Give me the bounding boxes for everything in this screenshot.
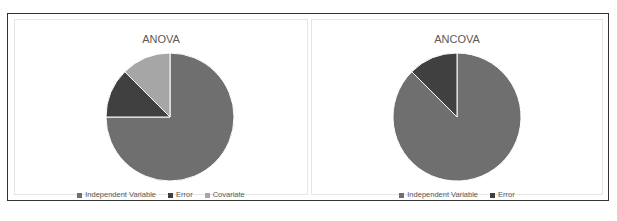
legend-swatch — [205, 193, 210, 198]
legend-item: Independent Variable — [77, 190, 156, 199]
anova-legend: Independent VariableErrorCovariate — [14, 190, 308, 199]
legend-label: Independent Variable — [85, 190, 156, 199]
ancova-pie — [387, 47, 527, 187]
chart-title: ANCOVA — [312, 33, 602, 45]
legend-swatch — [168, 193, 173, 198]
legend-swatch — [490, 193, 495, 198]
legend-item: Error — [490, 190, 515, 199]
legend-item: Independent Variable — [399, 190, 478, 199]
ancova-chart: ANCOVA — [311, 19, 603, 195]
chart-title: ANOVA — [15, 33, 307, 45]
legend-item: Error — [168, 190, 193, 199]
anova-pie — [100, 47, 240, 187]
legend-swatch — [77, 193, 82, 198]
legend-item: Covariate — [205, 190, 245, 199]
legend-label: Error — [498, 190, 515, 199]
legend-label: Covariate — [213, 190, 245, 199]
anova-chart: ANOVA — [14, 19, 308, 195]
legend-label: Independent Variable — [407, 190, 478, 199]
figure-frame: ANOVA ANCOVA — [7, 13, 609, 201]
legend-label: Error — [176, 190, 193, 199]
legend-swatch — [399, 193, 404, 198]
ancova-legend: Independent VariableError — [311, 190, 603, 199]
